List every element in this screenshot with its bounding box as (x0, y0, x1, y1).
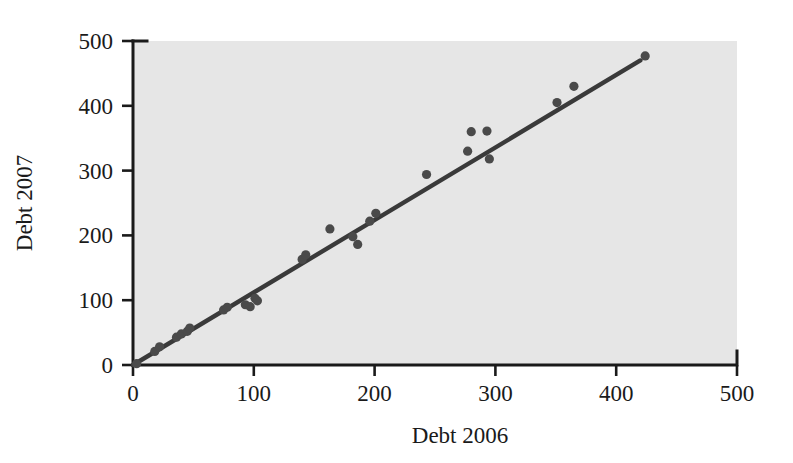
scatter-plot-figure: 01002003004005000100200300400500 Debt 20… (0, 0, 793, 463)
data-point (246, 302, 255, 311)
data-point (301, 250, 310, 259)
x-tick-label: 0 (127, 381, 139, 406)
y-axis-title: Debt 2007 (12, 155, 37, 251)
data-point (422, 170, 431, 179)
y-tick-label: 400 (79, 94, 114, 119)
data-point (463, 147, 472, 156)
data-point (485, 154, 494, 163)
axis-group (133, 41, 737, 365)
data-point (325, 224, 334, 233)
chart-svg: 01002003004005000100200300400500 Debt 20… (0, 0, 793, 463)
y-tick-label: 0 (102, 353, 114, 378)
data-point (552, 98, 561, 107)
data-point (371, 209, 380, 218)
data-point (467, 127, 476, 136)
x-tick-label: 400 (599, 381, 634, 406)
y-tick-label: 500 (79, 29, 114, 54)
y-tick-label: 200 (79, 223, 114, 248)
regression-line-group (133, 60, 640, 365)
data-point (132, 359, 141, 368)
data-point (155, 342, 164, 351)
x-tick-label: 200 (357, 381, 392, 406)
tick-labels-group: 01002003004005000100200300400500 (79, 29, 755, 406)
data-point (482, 126, 491, 135)
data-point (223, 303, 232, 312)
x-tick-label: 500 (720, 381, 755, 406)
data-point (353, 240, 362, 249)
data-point (253, 296, 262, 305)
data-point (348, 232, 357, 241)
regression-line (133, 60, 640, 365)
tick-marks-group (122, 41, 737, 376)
data-point (185, 323, 194, 332)
y-tick-label: 300 (79, 159, 114, 184)
data-point (569, 82, 578, 91)
x-tick-label: 100 (237, 381, 272, 406)
x-tick-label: 300 (478, 381, 513, 406)
y-tick-label: 100 (79, 288, 114, 313)
data-point (641, 51, 650, 60)
x-axis-title: Debt 2006 (412, 423, 508, 448)
data-point (365, 217, 374, 226)
axis-frame (133, 41, 737, 365)
